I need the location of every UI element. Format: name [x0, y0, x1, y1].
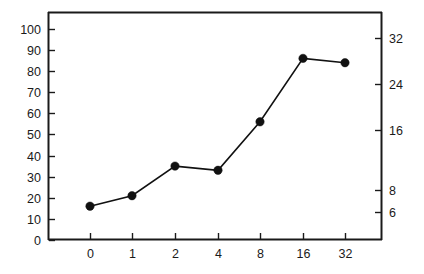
y-axis-tick-label: 30: [27, 171, 41, 185]
y2-axis-tick-label: 8: [389, 184, 396, 198]
data-series-line: [90, 58, 345, 206]
x-axis-tick-label: 0: [87, 247, 94, 261]
x-axis-tick-label: 32: [339, 247, 353, 261]
plot-frame: [48, 12, 382, 240]
x-axis-tick-label: 4: [215, 247, 222, 261]
x-axis-tick-label: 1: [129, 247, 136, 261]
y-axis-tick-label: 20: [27, 192, 41, 206]
chart-container: 0102030405060708090100 68162432 01248163…: [0, 0, 424, 274]
y-axis-tick-label: 0: [34, 234, 41, 248]
x-axis-tick-label: 2: [172, 247, 179, 261]
y-axis-tick-label: 70: [27, 86, 41, 100]
y2-axis-tick-label: 6: [389, 206, 396, 220]
y2-axis-tick-labels: 68162432: [389, 32, 403, 220]
x-axis-tick-label: 8: [257, 247, 264, 261]
data-point-markers: 0: 161: 212: 354: 338: 5616: 8632: 84: [86, 54, 349, 210]
data-point-marker: 1: 21: [128, 192, 136, 200]
y-axis-tick-label: 50: [27, 128, 41, 142]
y-axis-tick-label: 90: [27, 44, 41, 58]
data-point-marker: 32: 84: [341, 59, 349, 67]
y-axis-ticks: [49, 30, 55, 241]
data-point-marker: 2: 35: [171, 162, 179, 170]
y-axis-tick-label: 40: [27, 150, 41, 164]
data-point-marker: 16: 86: [299, 54, 307, 62]
y2-axis-tick-label: 24: [389, 78, 403, 92]
data-point-marker: 8: 56: [256, 118, 264, 126]
y-axis-tick-label: 60: [27, 107, 41, 121]
y-axis-tick-label: 100: [20, 23, 41, 37]
line-chart: 0102030405060708090100 68162432 01248163…: [0, 0, 424, 274]
y2-axis-ticks: [375, 39, 381, 213]
x-axis-tick-label: 16: [297, 247, 311, 261]
y2-axis-tick-label: 16: [389, 124, 403, 138]
y-axis-tick-label: 10: [27, 213, 41, 227]
data-point-marker: 0: 16: [86, 202, 94, 210]
x-axis-ticks: [91, 233, 346, 239]
data-point-marker: 4: 33: [214, 166, 222, 174]
y-axis-tick-label: 80: [27, 65, 41, 79]
y2-axis-tick-label: 32: [389, 32, 403, 46]
y-axis-tick-labels: 0102030405060708090100: [20, 23, 41, 248]
x-axis-tick-labels: 012481632: [87, 247, 352, 261]
